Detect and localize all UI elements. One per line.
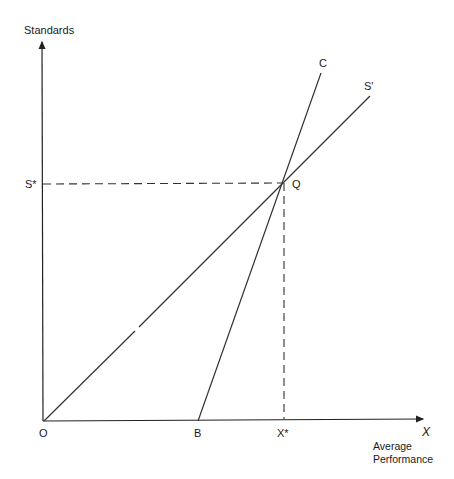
x-axis-label-line1: Average (373, 440, 412, 453)
line-c (198, 73, 321, 421)
y-axis (42, 42, 43, 421)
x-axis (43, 419, 423, 421)
point-b-label: B (194, 427, 201, 439)
y-axis-label: Standards (24, 24, 74, 36)
line-c-label: C (319, 57, 327, 69)
line-s-prime-label: S′ (364, 80, 373, 92)
x-axis-label-line2: Performance (373, 453, 433, 466)
x-star-label: X* (277, 427, 289, 439)
diagram-canvas (0, 0, 454, 479)
line-s-prime-lower (44, 331, 135, 421)
q-label: Q (292, 178, 301, 190)
origin-label: O (39, 427, 48, 439)
line-s-prime-upper (139, 96, 370, 327)
s-star-dashed-line (43, 183, 283, 184)
s-star-label: S* (25, 178, 37, 190)
x-axis-symbol: X (422, 426, 430, 438)
